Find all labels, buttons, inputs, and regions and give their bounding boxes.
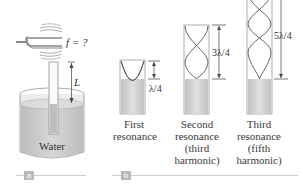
length-label-1: λ/4 (149, 83, 162, 94)
panel-a-tag: a (24, 171, 34, 180)
water-label: Water (39, 140, 65, 152)
panel-b-tag: b (121, 171, 131, 180)
caption-line: First (113, 118, 155, 130)
caption-line: Third (234, 118, 284, 130)
frequency-label: f = ? (66, 36, 88, 48)
caption-line: Second (172, 118, 222, 130)
caption-line: harmonic) (234, 154, 284, 166)
dimension-arrow-1 (148, 61, 160, 79)
tuning-fork-icon (16, 24, 63, 60)
caption-line: resonance (113, 130, 155, 142)
panel-b-rule (112, 175, 298, 176)
caption-tube-3: Third resonance (fifth harmonic) (234, 118, 284, 166)
tube-third-resonance (247, 0, 272, 114)
length-label-3: 5λ/4 (274, 30, 292, 41)
tube-first-resonance (120, 60, 145, 114)
length-label: L (73, 76, 80, 88)
resonance-tube (49, 62, 58, 134)
caption-line: harmonic) (172, 154, 222, 166)
panel-a: f = ? L Water (16, 24, 88, 158)
caption-line: (third (172, 142, 222, 154)
caption-line: resonance (234, 130, 284, 142)
caption-tube-2: Second resonance (third harmonic) (172, 118, 222, 166)
caption-line: (fifth (234, 142, 284, 154)
caption-line: resonance (172, 130, 222, 142)
length-label-2: 3λ/4 (212, 47, 230, 58)
caption-tube-1: First resonance (113, 118, 155, 142)
tube-second-resonance (184, 25, 209, 114)
